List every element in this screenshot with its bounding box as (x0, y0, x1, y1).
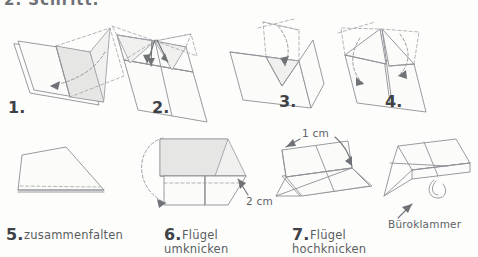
step-7-figure (276, 137, 372, 196)
final-plane-figure (384, 139, 470, 218)
step-6-caption-line1: Flügel (182, 229, 218, 241)
step-7-caption-line1: Flügel (310, 229, 346, 241)
step-2-number: 2. (152, 99, 169, 116)
step-6-figure (142, 138, 248, 208)
step-1-number: 1. (8, 99, 25, 116)
step-7-number: 7. (292, 226, 309, 243)
step-1-figure (14, 28, 124, 105)
step-4-figure (338, 22, 426, 112)
step-5-number: 5. (6, 226, 23, 243)
step-6-caption-line2: umknicken (164, 243, 228, 255)
measurement-1cm-label: 1 cm (302, 128, 329, 139)
step-5-figure (18, 147, 104, 192)
step-4-number: 4. (385, 93, 402, 110)
measurement-2cm-label: 2 cm (246, 196, 273, 207)
step-3-number: 3. (279, 93, 296, 110)
step-5-caption: zusammenfalten (24, 229, 123, 241)
step-6-number: 6. (164, 226, 181, 243)
step-3-figure (230, 19, 324, 108)
instruction-sheet: 2. Schritt: (0, 0, 478, 257)
step-7-caption-line2: hochknicken (292, 243, 366, 255)
paperclip-label: Büroklammer (388, 219, 461, 230)
